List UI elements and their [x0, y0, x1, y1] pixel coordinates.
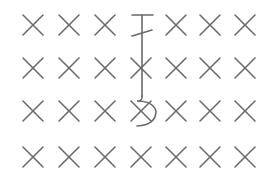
x-mark-icon [95, 15, 115, 35]
x-mark-icon [23, 147, 43, 167]
x-mark-icon [131, 147, 151, 167]
x-mark-icon [59, 15, 79, 35]
x-mark-icon [95, 101, 115, 121]
x-mark-icon [200, 15, 220, 35]
x-mark-icon [59, 101, 79, 121]
x-mark-icon [59, 147, 79, 167]
x-mark-grid [23, 15, 255, 167]
x-mark-icon [235, 15, 255, 35]
x-mark-icon [235, 58, 255, 78]
x-mark-icon [131, 101, 151, 121]
glyph-hook [137, 96, 156, 126]
x-mark-icon [131, 58, 151, 78]
x-mark-icon [59, 58, 79, 78]
x-mark-icon [200, 147, 220, 167]
x-mark-icon [23, 58, 43, 78]
x-mark-icon [166, 58, 186, 78]
x-mark-grid-figure [0, 0, 276, 169]
x-mark-icon [200, 101, 220, 121]
x-mark-icon [166, 101, 186, 121]
x-mark-icon [235, 101, 255, 121]
x-mark-icon [166, 15, 186, 35]
x-mark-icon [95, 58, 115, 78]
x-mark-icon [235, 147, 255, 167]
figure-svg [0, 0, 276, 169]
x-mark-icon [95, 147, 115, 167]
x-mark-icon [23, 101, 43, 121]
x-mark-icon [200, 58, 220, 78]
x-mark-icon [23, 15, 43, 35]
x-mark-icon [166, 147, 186, 167]
